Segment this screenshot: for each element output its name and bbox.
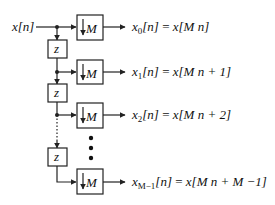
downsampler-box-1: M bbox=[77, 60, 103, 84]
downsampler-box-3: M bbox=[77, 169, 103, 194]
polyphase-diagram: x[n] M x0[n] = x[M n] z M x1[n] = x[M n … bbox=[0, 0, 275, 205]
vertical-ellipsis-icon bbox=[89, 136, 93, 160]
delay-label: z bbox=[53, 85, 59, 100]
downsampler-label: M bbox=[85, 66, 98, 81]
delay-label: z bbox=[53, 41, 59, 56]
input-label: x[n] bbox=[11, 19, 34, 34]
downsampler-label: M bbox=[85, 21, 98, 36]
output-label-0: x0[n] = x[M n] bbox=[131, 19, 209, 36]
output-label-1: x1[n] = x[M n + 1] bbox=[131, 64, 231, 81]
delay-box-3: z bbox=[48, 148, 67, 166]
downsampler-box-2: M bbox=[77, 103, 103, 128]
output-label-3: xM−1[n] = x[M n + M −1] bbox=[131, 174, 267, 191]
downsampler-label: M bbox=[85, 175, 98, 190]
downsampler-label: M bbox=[85, 109, 98, 124]
delay-box-2: z bbox=[48, 84, 67, 102]
output-label-2: x2[n] = x[M n + 2] bbox=[131, 107, 231, 124]
delay-label: z bbox=[53, 149, 59, 164]
delay-box-1: z bbox=[48, 40, 67, 58]
downsampler-box-0: M bbox=[77, 15, 103, 40]
